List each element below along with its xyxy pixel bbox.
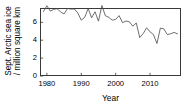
- y-tick-2: 2: [26, 58, 37, 59]
- y-tick-6: 6: [26, 22, 37, 23]
- chart-figure: Sept. Arctic sea ice / million square km…: [0, 0, 193, 107]
- y-axis-title: Sept. Arctic sea ice / million square km: [0, 2, 26, 80]
- y-axis-title-line-1: Sept. Arctic sea ice: [4, 6, 13, 76]
- x-tick-2000: 2000: [107, 79, 124, 88]
- x-tick-1990: 1990: [73, 79, 90, 88]
- chart-canvas: [40, 8, 181, 76]
- y-tick-0: 0: [26, 76, 37, 77]
- x-tick-2010: 2010: [142, 79, 159, 88]
- y-tick-4: 4: [26, 40, 37, 41]
- x-axis-title: Year: [40, 93, 181, 103]
- y-axis-title-line-2: / million square km: [13, 7, 22, 75]
- x-tick-marks: [47, 73, 150, 76]
- sea-ice-line: [43, 5, 177, 43]
- x-tick-1980: 1980: [38, 79, 55, 88]
- y-tick-marks: [40, 22, 43, 76]
